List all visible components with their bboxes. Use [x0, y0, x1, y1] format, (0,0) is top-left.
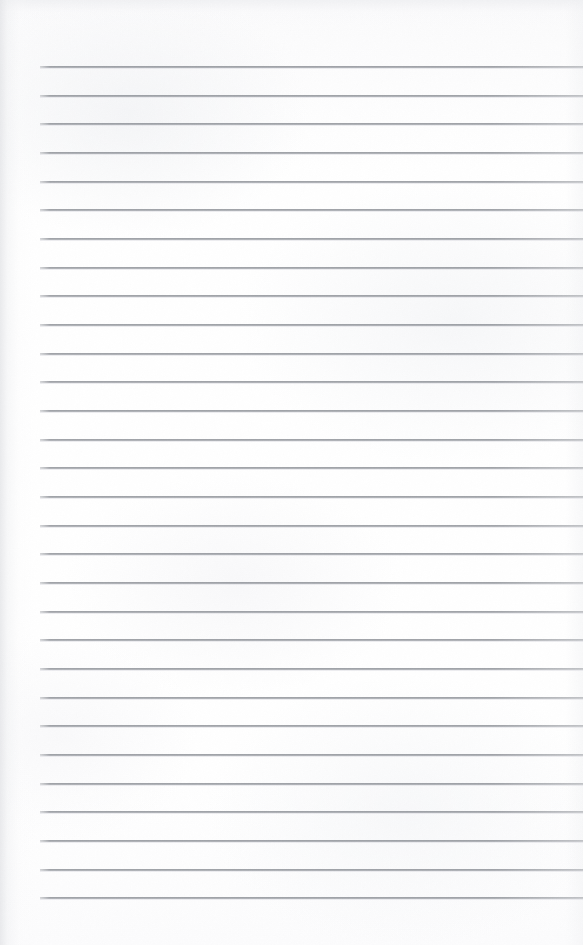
- ruled-line: [40, 525, 583, 527]
- ruled-line: [40, 295, 583, 297]
- ruled-line: [40, 152, 583, 154]
- ruled-line: [40, 353, 583, 355]
- ruled-line: [40, 381, 583, 383]
- ruled-line: [40, 639, 583, 641]
- ruled-line: [40, 783, 583, 785]
- ruled-line: [40, 725, 583, 727]
- ruled-line: [40, 582, 583, 584]
- ruled-line: [40, 611, 583, 613]
- ruled-line: [40, 123, 583, 125]
- ruled-line: [40, 496, 583, 498]
- ruled-line: [40, 439, 583, 441]
- ruled-line: [40, 840, 583, 842]
- ruled-line: [40, 668, 583, 670]
- ruled-line: [40, 238, 583, 240]
- ruled-line: [40, 66, 583, 68]
- scanned-page: [0, 0, 583, 945]
- ruled-line: [40, 95, 583, 97]
- ruled-line: [40, 869, 583, 871]
- ruled-line: [40, 209, 583, 211]
- ruled-line: [40, 181, 583, 183]
- ruled-line: [40, 897, 583, 899]
- ruled-line: [40, 553, 583, 555]
- ruled-line: [40, 324, 583, 326]
- ruled-line: [40, 410, 583, 412]
- ruled-line: [40, 697, 583, 699]
- ruled-line: [40, 467, 583, 469]
- ruled-line: [40, 811, 583, 813]
- ruled-line: [40, 754, 583, 756]
- ruled-lines-layer: [0, 0, 583, 945]
- ruled-line: [40, 267, 583, 269]
